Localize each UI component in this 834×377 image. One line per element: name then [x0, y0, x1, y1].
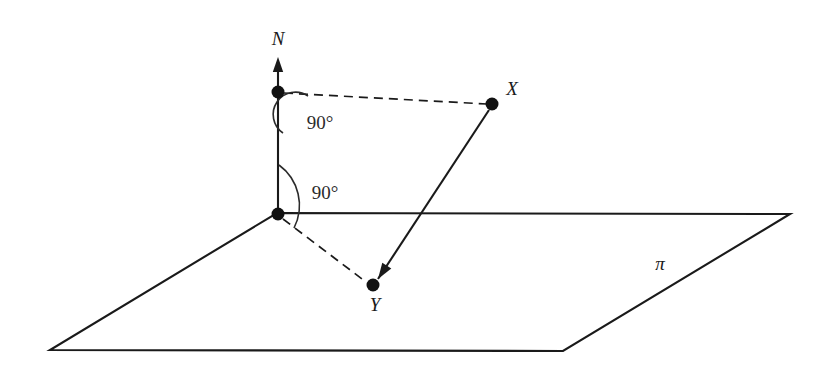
point-x-dot [486, 98, 499, 111]
geometry-canvas [0, 0, 834, 377]
point-foot-dot [272, 208, 285, 221]
label-y: Y [370, 295, 381, 314]
xy-arrowhead-icon [378, 263, 391, 279]
label-x: X [506, 79, 518, 98]
point-y-dot [367, 279, 380, 292]
point-upper-dot [272, 86, 285, 99]
geometry-diagram: N X Y π 90° 90° [0, 0, 834, 377]
dashed-segment-upper-to-x [284, 93, 487, 104]
angle-label-lower: 90° [312, 183, 339, 202]
dashed-segment-foot-to-y [283, 219, 366, 282]
label-n: N [272, 29, 285, 48]
plane-pi-outline [50, 213, 790, 351]
normal-arrowhead-icon [273, 57, 283, 72]
segment-x-to-y [378, 110, 489, 279]
angle-label-upper: 90° [307, 113, 334, 132]
label-pi: π [655, 254, 665, 273]
